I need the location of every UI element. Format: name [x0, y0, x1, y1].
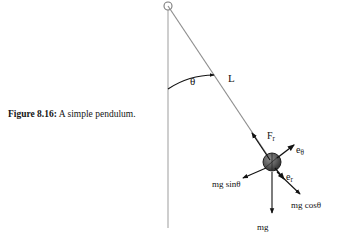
- mg-sin-theta-arrow: [243, 168, 266, 178]
- unit-vector-r-label: er: [286, 172, 293, 184]
- figure-caption-label: Figure 8.16:: [8, 109, 57, 119]
- unit-vector-theta-label: eθ: [296, 145, 304, 157]
- mg-sin-theta-label: mg sinθ: [212, 180, 241, 189]
- length-label: L: [228, 73, 235, 84]
- tension-force-label: Fr: [267, 131, 275, 143]
- weight-label: mg: [257, 223, 269, 232]
- mg-cos-theta-label: mg cosθ: [291, 201, 321, 210]
- figure-container: Figure 8.16: A simple pendulum. θ L Fr e…: [0, 0, 346, 243]
- angle-label: θ: [190, 76, 195, 87]
- unit-vector-r-subscript: r: [290, 176, 292, 184]
- unit-vector-theta-subscript: θ: [300, 149, 303, 157]
- unit-vector-theta-arrow: [277, 145, 294, 158]
- figure-caption-text: A simple pendulum.: [59, 109, 136, 119]
- tension-force-subscript: r: [273, 135, 275, 143]
- figure-caption: Figure 8.16: A simple pendulum.: [8, 108, 168, 120]
